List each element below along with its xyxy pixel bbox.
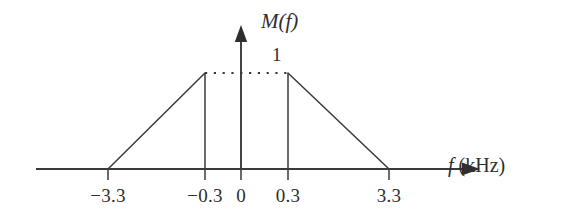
y-axis-label: M(f)	[261, 11, 298, 32]
y-axis	[235, 25, 247, 169]
tick-label-zero: 0	[236, 186, 246, 205]
tick-label-minus-3-3: −3.3	[90, 186, 125, 205]
tick-label-plus-3-3: 3.3	[377, 186, 401, 205]
x-axis-label: f (kHz)	[428, 135, 505, 195]
x-axis-unit: (kHz)	[459, 154, 506, 176]
tick-label-plus-0-3: 0.3	[276, 186, 300, 205]
x-axis-ticks	[108, 169, 389, 180]
y-axis-arrowhead-icon	[235, 25, 247, 42]
right-falling-edge	[288, 73, 389, 169]
left-rising-edge	[108, 73, 205, 169]
tick-label-minus-0-3: −0.3	[187, 186, 222, 205]
peak-amplitude-label: 1	[272, 45, 282, 64]
x-axis	[36, 163, 480, 176]
spectrum-figure: M(f) 1 f (kHz) −3.3 −0.3 0 0.3 3.3	[0, 0, 587, 217]
